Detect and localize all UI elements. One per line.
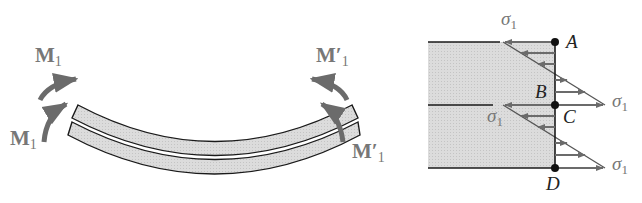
point-c xyxy=(551,101,559,109)
moment-arrow-upper-right-icon xyxy=(312,79,347,100)
label-d: D xyxy=(545,173,560,194)
moment-arrow-upper-left-icon xyxy=(40,79,76,100)
svg-text:M1: M1 xyxy=(35,43,62,69)
moment-arrow-lower-left-icon xyxy=(44,104,66,142)
svg-text:M′1: M′1 xyxy=(316,43,349,69)
point-a xyxy=(551,38,559,46)
label-c: C xyxy=(563,106,576,127)
svg-text:σ1: σ1 xyxy=(501,8,517,32)
point-d xyxy=(551,164,559,172)
svg-text:σ1: σ1 xyxy=(612,153,628,177)
svg-text:M′1: M′1 xyxy=(352,139,385,165)
label-m1-upper-left: M xyxy=(35,43,55,67)
svg-text:M1: M1 xyxy=(10,126,37,152)
label-m1-prime-lower-right: M xyxy=(352,139,372,163)
svg-text:σ1: σ1 xyxy=(612,90,628,114)
label-b: B xyxy=(535,81,547,102)
label-m1-prime-upper-right: M xyxy=(316,43,336,67)
label-a: A xyxy=(564,31,578,52)
label-m1-lower-left: M xyxy=(10,126,30,150)
diagram-canvas: M1 M1 M′1 M′1 A B C D σ1 σ1 σ1 σ1 xyxy=(0,0,642,203)
